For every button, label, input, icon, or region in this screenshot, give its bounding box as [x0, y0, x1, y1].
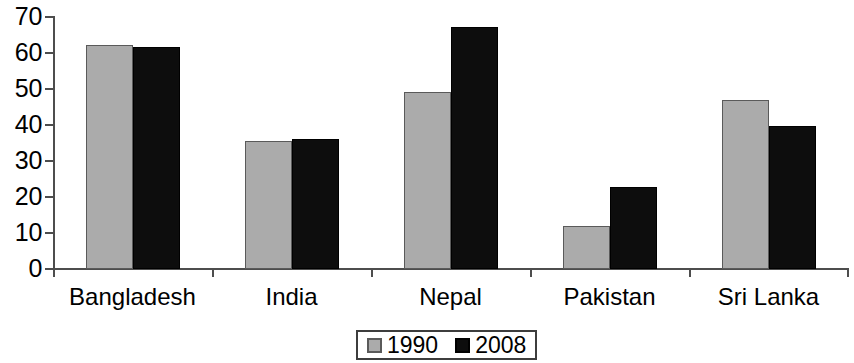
x-tick-mark-1: [212, 268, 214, 277]
bar-srilanka-2008: [769, 126, 816, 269]
legend-entry-1990: 1990: [367, 334, 438, 357]
bar-nepal-2008: [451, 27, 498, 269]
bar-india-2008: [292, 139, 339, 269]
legend-entry-2008: 2008: [455, 334, 526, 357]
y-tick-mark-70: [45, 16, 54, 18]
x-cat-label-nepal: Nepal: [371, 283, 530, 310]
y-tick-mark-10: [45, 232, 54, 234]
x-cat-label-bangladesh: Bangladesh: [53, 283, 212, 310]
y-tick-label-50: 50: [0, 76, 42, 101]
chart-legend: 1990 2008: [356, 330, 537, 360]
y-tick-mark-50: [45, 88, 54, 90]
y-tick-mark-40: [45, 124, 54, 126]
black-swatch-icon: [455, 338, 470, 353]
legend-label-2008: 2008: [475, 334, 526, 357]
bar-chart: 70 60 50 40 30 20 10 0 Bangladesh India …: [0, 0, 854, 363]
y-tick-label-20: 20: [0, 184, 42, 209]
y-tick-label-30: 30: [0, 148, 42, 173]
bar-pakistan-2008: [610, 187, 657, 269]
x-tick-mark-2: [371, 268, 373, 277]
y-tick-mark-20: [45, 196, 54, 198]
x-tick-mark-0: [53, 268, 55, 277]
x-tick-mark-4: [689, 268, 691, 277]
bar-pakistan-1990: [563, 226, 610, 269]
y-tick-mark-30: [45, 160, 54, 162]
bar-nepal-1990: [404, 92, 451, 269]
x-cat-label-india: India: [212, 283, 371, 310]
y-tick-label-10: 10: [0, 220, 42, 245]
gray-swatch-icon: [367, 338, 382, 353]
y-tick-label-40: 40: [0, 112, 42, 137]
bar-bangladesh-2008: [133, 47, 180, 269]
y-tick-label-60: 60: [0, 40, 42, 65]
x-tick-mark-5: [847, 268, 849, 277]
legend-label-1990: 1990: [387, 334, 438, 357]
x-cat-label-pakistan: Pakistan: [530, 283, 689, 310]
bar-bangladesh-1990: [86, 45, 133, 269]
y-tick-label-0: 0: [0, 256, 42, 281]
x-cat-label-srilanka: Sri Lanka: [689, 283, 848, 310]
y-tick-label-70: 70: [0, 4, 42, 29]
x-tick-mark-3: [530, 268, 532, 277]
y-tick-mark-60: [45, 52, 54, 54]
bar-india-1990: [245, 141, 292, 269]
bar-srilanka-1990: [722, 100, 769, 269]
